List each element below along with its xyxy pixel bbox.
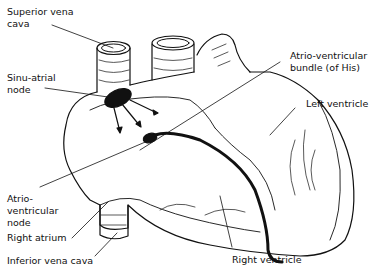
label-atrio-ventricular-bundle: Atrio-ventricular bundle (of His): [290, 50, 367, 74]
bundle-of-his-path: [155, 133, 282, 262]
label-right-atrium: Right atrium: [7, 232, 66, 244]
label-right-ventricle: Right ventricle: [232, 254, 302, 266]
label-inferior-vena-cava: Inferior vena cava: [7, 255, 93, 267]
label-left-ventricle: Left ventricle: [306, 98, 368, 110]
leader-lines: [40, 25, 295, 256]
pulmonary-trunk-shape: [197, 34, 250, 72]
heart-diagram: Superior vena cava Sinu-atrial node Atri…: [0, 0, 380, 278]
sinu-atrial-node-shape: [102, 85, 134, 111]
label-atrio-ventricular-node: Atrio- ventricular node: [7, 193, 58, 229]
inferior-vena-cava-shape: [100, 205, 128, 239]
label-superior-vena-cava: Superior vena cava: [7, 6, 74, 30]
label-sinu-atrial-node: Sinu-atrial node: [7, 72, 56, 96]
superior-vena-cava-shape: [97, 42, 130, 93]
